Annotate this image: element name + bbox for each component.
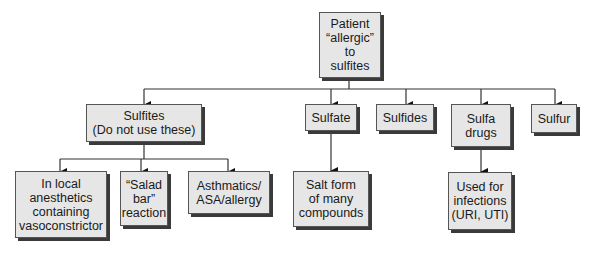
- node-local-anesthetics: In local anesthetics containing vasocons…: [15, 171, 107, 238]
- node-sulfa-drugs: Sulfa drugs: [451, 104, 511, 147]
- node-salad-bar: “Salad bar” reaction: [120, 171, 168, 226]
- node-asthmatics: Asthmatics/ ASA/allergy: [188, 171, 270, 214]
- node-sulfate: Sulfate: [305, 104, 357, 131]
- node-root: Patient “allergic” to sulfites: [319, 12, 381, 78]
- flowchart-canvas: Patient “allergic” to sulfites Sulfites …: [0, 0, 590, 254]
- node-salt-form: Salt form of many compounds: [293, 171, 369, 227]
- node-sulfites: Sulfites (Do not use these): [86, 104, 202, 142]
- node-sulfur: Sulfur: [531, 104, 577, 133]
- node-used-for-infections: Used for infections (URI, UTI): [448, 172, 512, 230]
- node-sulfides: Sulfides: [376, 104, 434, 131]
